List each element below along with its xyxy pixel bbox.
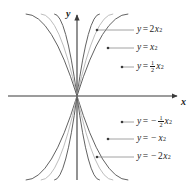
- leader-dot-y-neg-x2: [107, 138, 110, 141]
- leader-dot-y-2x2: [96, 29, 99, 32]
- leader-dot-y-neg-2x2: [96, 156, 99, 159]
- y-axis-label: y: [66, 9, 70, 19]
- x-axis-label: x: [181, 97, 186, 107]
- leader-dot-y-neg-half-x2: [121, 121, 124, 124]
- callout-label-y-neg-x2: y=−x2: [137, 134, 166, 144]
- leader-lines-group: [97, 30, 134, 157]
- callout-label-y-neg-half-x2: y=−12x2: [137, 115, 172, 129]
- leader-dot-y-half-x2: [121, 66, 124, 69]
- callout-label-y-x2: y=x2: [137, 43, 158, 53]
- leader-dot-y-x2: [107, 47, 110, 50]
- callout-label-y-neg-2x2: y=−2x2: [137, 152, 171, 162]
- callout-label-y-2x2: y=2x2: [137, 25, 162, 35]
- parabola-family-figure: y x y=2x2 y=x2 y=12x2 y=−12x2 y=−x2 y=−2…: [0, 0, 194, 183]
- callout-label-y-half-x2: y=12x2: [137, 60, 164, 74]
